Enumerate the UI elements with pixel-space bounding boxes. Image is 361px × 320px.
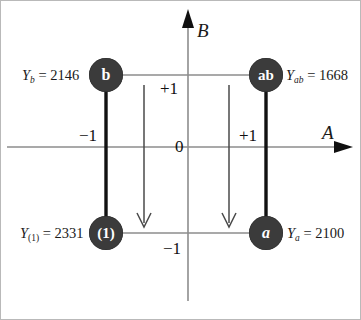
tick-a-low: −1 <box>79 127 97 144</box>
response-b-symbol: Y <box>22 67 30 83</box>
x-axis-arrowhead <box>334 141 353 153</box>
response-one-symbol: Y <box>20 225 28 241</box>
response-b-equals: = <box>38 67 46 83</box>
response-b-value: 2146 <box>50 67 79 83</box>
response-label-a: Ya = 2100 <box>287 226 344 244</box>
response-b-subscript: b <box>30 75 35 85</box>
response-a-symbol: Y <box>287 225 295 241</box>
response-a-value: 2100 <box>315 225 344 241</box>
tick-b-high: +1 <box>160 80 178 97</box>
node-a-label: a <box>262 224 270 242</box>
response-a-subscript: a <box>295 233 300 243</box>
response-a-equals: = <box>303 225 311 241</box>
node-ab-label: ab <box>258 67 274 84</box>
right-effect-arrow <box>222 85 236 227</box>
response-ab-symbol: Y <box>286 67 294 83</box>
response-one-subscript: (1) <box>28 233 39 243</box>
response-label-ab: Yab = 1668 <box>286 68 348 86</box>
factorial-design-figure: b ab (1) a B A +1 −1 +1 −1 0 Yb = 2146 Y… <box>0 0 361 320</box>
origin-label: 0 <box>175 138 184 155</box>
y-axis-arrowhead <box>182 9 194 28</box>
node-b[interactable]: b <box>89 58 123 92</box>
node-one[interactable]: (1) <box>89 216 123 250</box>
node-a[interactable]: a <box>249 216 283 250</box>
response-label-b: Yb = 2146 <box>22 68 79 86</box>
y-axis-label: B <box>197 21 209 40</box>
response-ab-value: 1668 <box>319 67 348 83</box>
left-effect-arrow <box>137 85 151 227</box>
response-one-equals: = <box>43 225 51 241</box>
response-label-one: Y(1) = 2331 <box>20 226 84 244</box>
response-ab-equals: = <box>307 67 315 83</box>
node-b-label: b <box>102 66 111 84</box>
tick-b-low: −1 <box>163 240 181 257</box>
x-axis-label: A <box>322 123 334 142</box>
response-one-value: 2331 <box>55 225 84 241</box>
response-ab-subscript: ab <box>294 75 304 85</box>
node-one-label: (1) <box>97 225 115 242</box>
diagram-canvas <box>1 1 361 320</box>
tick-a-high: +1 <box>239 127 257 144</box>
node-ab[interactable]: ab <box>249 58 283 92</box>
